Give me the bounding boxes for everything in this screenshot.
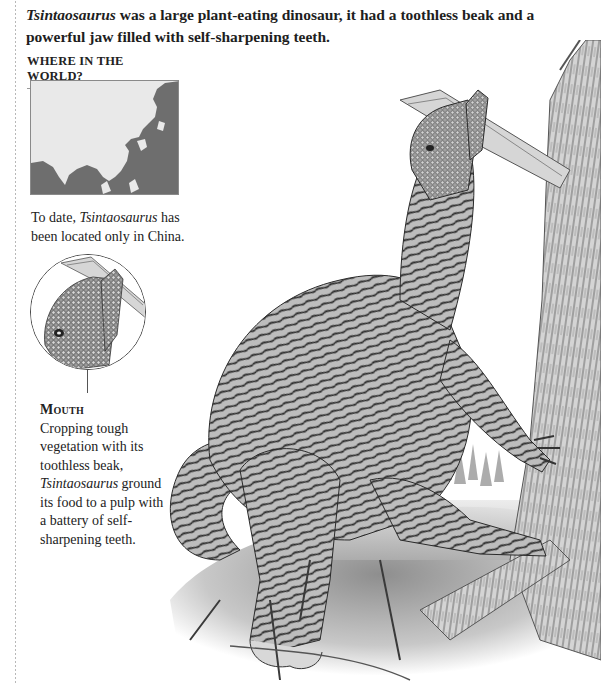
location-caption-species: Tsintaosaurus [79,210,157,225]
intro-species-name: Tsintaosaurus [26,6,116,23]
location-caption-prefix: To date, [31,210,79,225]
page-margin-dotted-rule [14,0,17,684]
tsintaosaurus-illustration [150,40,601,684]
dinosaur-head-closeup-icon [31,255,146,370]
mouth-caption-species: Tsintaosaurus [40,476,118,491]
inset-leader-line [87,370,88,393]
mouth-closeup-inset [30,254,146,370]
dinosaur-illustration-icon [150,40,601,684]
mouth-caption-text-1: Cropping tough vegetation with its tooth… [40,421,143,473]
